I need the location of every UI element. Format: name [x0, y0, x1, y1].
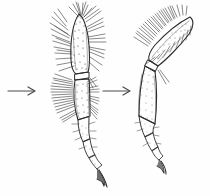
- figure-canvas: Comparison of insect hind leg setation H…: [0, 0, 210, 196]
- leg-illustration-svg: [0, 0, 210, 196]
